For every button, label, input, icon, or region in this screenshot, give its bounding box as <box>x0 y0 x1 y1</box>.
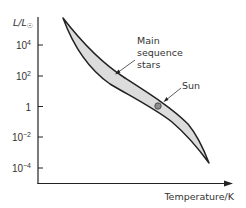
svg-text:L/L☉: L/L☉ <box>13 17 33 30</box>
sun-annotation: Sun <box>164 80 201 102</box>
y-tick-label: 10−2 <box>12 131 31 143</box>
main-sequence-label-line3: stars <box>137 59 160 70</box>
main-sequence-label-line2: sequence <box>137 47 183 58</box>
main-sequence-label-line1: Main <box>137 35 160 46</box>
sun-label: Sun <box>182 80 200 91</box>
sun-marker <box>155 103 161 109</box>
y-axis-title: L/L☉ <box>13 17 33 30</box>
y-axis-title-sub: ☉ <box>27 22 33 30</box>
x-axis-title: Temperature/K <box>163 191 234 202</box>
y-tick-label: 10−4 <box>12 162 31 174</box>
sun-pointer <box>166 88 181 100</box>
sun-arrowhead-icon <box>164 97 169 102</box>
hr-diagram: L/L☉ 104 102 1 10−2 10−4 Main sequence s… <box>0 0 246 208</box>
svg-text:Main sequence star: Main sequence stars <box>137 35 186 70</box>
y-tick-label: 102 <box>16 70 31 82</box>
y-tick-label: 1 <box>25 102 31 113</box>
y-tick-labels: 104 102 1 10−2 10−4 <box>12 39 32 174</box>
main-sequence-pointer <box>117 60 135 73</box>
main-sequence-annotation: Main sequence stars <box>115 35 186 75</box>
x-axis-arrow-icon <box>224 181 233 187</box>
y-tick-label: 104 <box>16 39 31 51</box>
y-ticks <box>38 45 43 168</box>
y-axis-title-main: L/L <box>13 17 27 28</box>
